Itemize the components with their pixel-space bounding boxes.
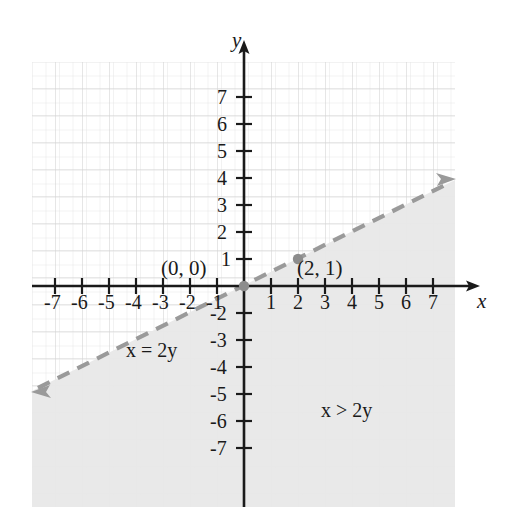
- point-origin: [239, 281, 249, 291]
- x-tick-label--2: -2: [179, 292, 196, 312]
- second-point-label: (2, 1): [297, 258, 343, 279]
- x-tick-label-6: 6: [401, 292, 411, 312]
- y-tick-label--6: -6: [210, 411, 227, 431]
- x-tick-label-7: 7: [428, 292, 438, 312]
- x-tick-label-5: 5: [374, 292, 384, 312]
- y-tick-label-5: 5: [217, 141, 227, 161]
- y-tick-label--2: -2: [210, 303, 227, 323]
- y-tick-label-4: 4: [217, 168, 227, 188]
- y-tick-label-2: 2: [217, 222, 227, 242]
- y-tick-label-7: 7: [217, 87, 227, 107]
- y-tick-label-3: 3: [217, 195, 227, 215]
- y-tick-label--5: -5: [210, 384, 227, 404]
- y-tick-label-6: 6: [217, 114, 227, 134]
- x-tick-label--7: -7: [44, 292, 61, 312]
- x-tick-label--5: -5: [98, 292, 115, 312]
- x-tick-label-4: 4: [347, 292, 357, 312]
- x-tick-label-3: 3: [320, 292, 330, 312]
- coordinate-plane: [0, 0, 512, 532]
- inequality-graph-figure: -7 -6 -5 -4 -3 -2 -1 1 2 3 4 5 6 7 7 6 5…: [0, 0, 512, 532]
- y-tick-label--7: -7: [210, 438, 227, 458]
- y-tick-label-1: 1: [221, 249, 231, 269]
- x-tick-label--3: -3: [152, 292, 169, 312]
- x-axis-label: x: [477, 291, 486, 312]
- x-tick-label-2: 2: [293, 292, 303, 312]
- x-tick-label--4: -4: [125, 292, 142, 312]
- x-tick-label-1: 1: [266, 292, 276, 312]
- y-tick-label--3: -3: [210, 330, 227, 350]
- y-axis-label: y: [232, 30, 241, 51]
- x-tick-label--6: -6: [71, 292, 88, 312]
- y-tick-label--4: -4: [210, 357, 227, 377]
- region-inequality-label: x > 2y: [321, 400, 372, 420]
- origin-point-label: (0, 0): [161, 258, 207, 279]
- boundary-line-label: x = 2y: [126, 340, 177, 360]
